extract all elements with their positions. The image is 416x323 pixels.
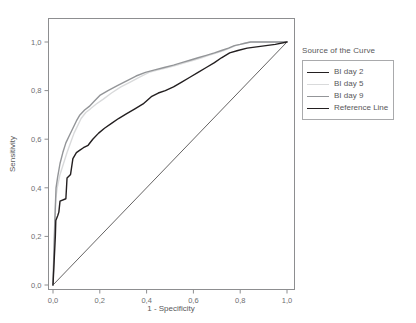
x-tick-label: 0,8 [235,296,245,305]
legend: Source of the Curve BI day 2 BI day 5 BI… [302,46,414,120]
y-axis-ticks [45,42,49,285]
y-tick-label: 0,2 [31,232,41,241]
x-tick-label: 0,2 [95,296,105,305]
y-tick-label: 0,8 [31,86,41,95]
y-tick-label: 0,4 [31,184,41,193]
legend-box: BI day 2 BI day 5 BI day 9 Reference Lin… [302,60,394,120]
legend-swatch-bi-day-9 [307,96,329,97]
legend-label-bi-day-2: BI day 2 [334,66,363,78]
x-tick-label: 1,0 [282,296,292,305]
legend-item-bi-day-9[interactable]: BI day 9 [307,90,388,102]
plot-frame [49,19,295,290]
legend-label-bi-day-9: BI day 9 [334,90,363,102]
legend-item-reference-line[interactable]: Reference Line [307,102,388,114]
legend-swatch-bi-day-5 [307,84,329,85]
roc-curve-figure: 0,00,20,40,60,81,0 0,00,20,40,60,81,0 1 … [0,0,416,323]
legend-label-reference-line: Reference Line [334,102,388,114]
legend-swatch-bi-day-2 [307,72,329,73]
legend-item-bi-day-5[interactable]: BI day 5 [307,78,388,90]
x-tick-label: 0,0 [48,296,58,305]
x-axis-title: 1 - Specificity [147,304,195,313]
y-tick-label: 1,0 [31,38,41,47]
y-axis-tick-labels: 0,00,20,40,60,81,0 [31,38,41,290]
y-tick-label: 0,6 [31,135,41,144]
legend-title: Source of the Curve [302,46,414,55]
legend-item-bi-day-2[interactable]: BI day 2 [307,66,388,78]
x-axis-ticks [53,290,287,294]
legend-label-bi-day-5: BI day 5 [334,78,363,90]
y-tick-label: 0,0 [31,281,41,290]
y-axis-title: Sensitivity [8,136,17,172]
legend-swatch-reference-line [307,108,329,109]
